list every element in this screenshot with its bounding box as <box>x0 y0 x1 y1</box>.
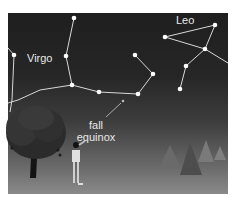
fall-equinox-label-line1: fall <box>76 119 116 131</box>
leo-lines <box>165 25 228 89</box>
person-illustration <box>72 141 85 184</box>
tree-illustration <box>6 106 66 178</box>
constellation-diagram <box>0 0 236 201</box>
virgo-lines <box>8 18 153 112</box>
virgo-label: Virgo <box>27 52 52 64</box>
leo-stars <box>163 23 218 92</box>
fall-equinox-marker <box>106 100 124 117</box>
pine-trees-illustration <box>160 140 226 175</box>
fall-equinox-label-line2: equinox <box>76 131 116 143</box>
fall-equinox-label: fall equinox <box>76 119 116 143</box>
leo-label: Leo <box>176 14 194 26</box>
